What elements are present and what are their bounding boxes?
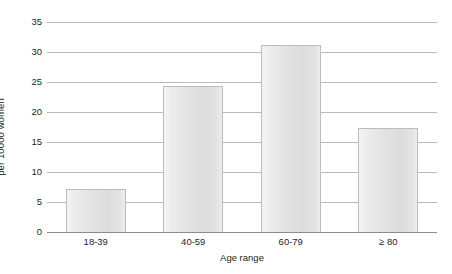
x-axis-tick-label: 40-59 bbox=[145, 236, 243, 248]
gridline bbox=[47, 52, 437, 53]
y-axis-tick-label: 5 bbox=[16, 197, 42, 207]
y-axis-tick-label: 20 bbox=[16, 107, 42, 117]
x-axis-title: Age range bbox=[47, 252, 437, 263]
bar bbox=[358, 128, 418, 232]
bar bbox=[66, 189, 126, 232]
y-axis-tick-label: 15 bbox=[16, 137, 42, 147]
y-axis-tick-label: 0 bbox=[16, 227, 42, 237]
y-axis-tick-label: 25 bbox=[16, 77, 42, 87]
y-axis-tick-labels: 05101520253035 bbox=[12, 22, 42, 232]
bar bbox=[261, 45, 321, 232]
x-axis-tick-label: ≥ 80 bbox=[340, 236, 438, 248]
gridline bbox=[47, 82, 437, 83]
plot-area bbox=[47, 22, 437, 232]
y-axis-tick-label: 10 bbox=[16, 167, 42, 177]
gridline bbox=[47, 112, 437, 113]
y-axis-tick-label: 35 bbox=[16, 17, 42, 27]
x-axis-tick-label: 18-39 bbox=[47, 236, 145, 248]
x-axis-tick-labels: 18-3940-5960-79≥ 80 bbox=[47, 236, 437, 250]
gridline bbox=[47, 22, 437, 23]
x-axis-tick-label: 60-79 bbox=[242, 236, 340, 248]
y-axis-tick-label: 30 bbox=[16, 47, 42, 57]
bar-chart: per 10000 women 05101520253035 18-3940-5… bbox=[0, 0, 452, 274]
bar bbox=[163, 86, 223, 232]
